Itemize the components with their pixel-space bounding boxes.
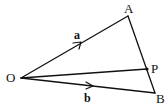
label-A: A — [124, 1, 134, 16]
label-P: P — [151, 61, 158, 76]
vector-diagram: O A P B a b — [0, 0, 167, 106]
point-P-dot — [145, 67, 148, 70]
segment-OA — [21, 16, 128, 78]
label-B: B — [156, 91, 165, 106]
label-vector-b: b — [84, 91, 91, 105]
segment-OP — [21, 69, 147, 78]
label-vector-a: a — [74, 28, 80, 42]
segment-AB — [128, 16, 155, 93]
label-O: O — [6, 70, 15, 85]
